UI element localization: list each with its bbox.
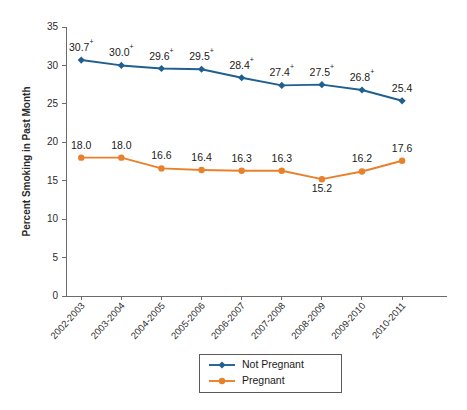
data-point-marker — [398, 97, 405, 104]
data-point-marker — [198, 167, 204, 173]
y-tick-label: 15 — [47, 175, 59, 186]
significance-marker: + — [250, 55, 254, 62]
data-point-label: 28.4+ — [229, 55, 254, 71]
x-tick-label: 2004-2005 — [128, 300, 167, 341]
significance-marker: + — [170, 46, 174, 53]
significance-marker: + — [89, 38, 93, 45]
y-tick-label: 20 — [47, 136, 59, 147]
data-point-label: 27.4+ — [270, 63, 295, 79]
data-point-label: 26.8+ — [350, 68, 375, 84]
y-tick-label: 25 — [47, 98, 59, 109]
chart-container: 05101520253035Percent Smoking in Past Mo… — [0, 0, 467, 410]
y-tick-label: 0 — [52, 290, 58, 301]
data-point-label: 18.0 — [71, 139, 92, 151]
data-point-marker — [78, 154, 84, 160]
x-tick-label: 2010-2011 — [369, 300, 407, 341]
data-point-label: 16.3 — [272, 152, 293, 164]
data-point-marker — [238, 74, 245, 81]
legend-label-pregnant[interactable]: Pregnant — [242, 374, 285, 386]
y-tick-label: 5 — [52, 252, 58, 263]
data-point-marker — [158, 165, 164, 171]
significance-marker: + — [130, 43, 134, 50]
significance-marker: + — [290, 63, 294, 70]
significance-marker: + — [330, 62, 334, 69]
data-point-label: 16.6 — [151, 149, 172, 161]
data-point-label: 30.7+ — [69, 38, 94, 54]
y-axis-title: Percent Smoking in Past Month — [21, 86, 32, 236]
data-point-marker — [359, 168, 365, 174]
data-point-label: 29.6+ — [149, 46, 174, 62]
x-tick-label: 2006-2007 — [209, 300, 248, 341]
data-point-marker — [399, 158, 405, 164]
legend-label-not-pregnant[interactable]: Not Pregnant — [242, 358, 304, 370]
data-point-label: 27.5+ — [310, 62, 335, 78]
data-point-marker — [278, 82, 285, 89]
data-point-label: 18.0 — [111, 139, 132, 151]
data-point-marker — [198, 66, 205, 73]
data-point-label: 16.3 — [231, 152, 252, 164]
x-tick-label: 2003-2004 — [88, 300, 127, 341]
y-tick-label: 10 — [47, 213, 59, 224]
data-point-marker — [238, 168, 244, 174]
x-tick-label: 2002-2003 — [48, 300, 87, 341]
y-tick-label: 30 — [47, 60, 59, 71]
data-point-label: 29.5+ — [189, 47, 214, 63]
data-point-marker — [318, 81, 325, 88]
legend-marker — [219, 378, 225, 384]
data-point-marker — [279, 168, 285, 174]
data-point-label: 30.0+ — [109, 43, 134, 59]
significance-marker: + — [370, 68, 374, 75]
data-point-marker — [78, 56, 85, 63]
data-point-marker — [158, 65, 165, 72]
data-point-label: 16.4 — [191, 151, 212, 163]
data-point-label: 15.2 — [312, 182, 333, 194]
x-tick-label: 2005-2006 — [168, 300, 207, 341]
significance-marker: + — [210, 47, 214, 54]
data-point-label: 16.2 — [352, 152, 373, 164]
x-tick-label: 2008-2009 — [289, 300, 328, 341]
y-tick-label: 35 — [47, 21, 59, 32]
x-tick-label: 2007-2008 — [249, 300, 288, 341]
data-point-marker — [358, 86, 365, 93]
smoking-trend-line-chart: 05101520253035Percent Smoking in Past Mo… — [0, 0, 467, 410]
data-point-marker — [118, 62, 125, 69]
data-point-label: 17.6 — [392, 142, 413, 154]
data-point-marker — [118, 154, 124, 160]
data-point-label: 25.4 — [392, 82, 413, 94]
x-tick-label: 2009-2010 — [329, 300, 368, 341]
